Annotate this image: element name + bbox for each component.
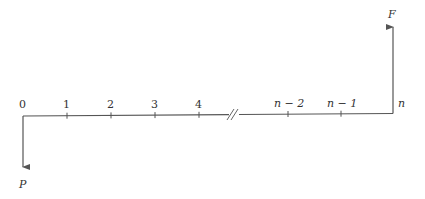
time-label-n-minus-2: n − 2: [274, 97, 304, 110]
cash-flow-diagram: 0 1 2 3 4 n − 2 n − 1 n P F: [0, 0, 425, 199]
time-label-0: 0: [19, 98, 26, 111]
time-label-4: 4: [195, 98, 202, 111]
time-label-1: 1: [63, 98, 70, 111]
future-value-label: F: [387, 8, 396, 21]
time-axis-right: [239, 114, 393, 115]
time-label-n-minus-1: n − 1: [327, 97, 357, 110]
time-label-2: 2: [107, 98, 114, 111]
time-axis-left: [23, 115, 229, 116]
present-value-label: P: [18, 178, 27, 191]
time-label-3: 3: [151, 98, 158, 111]
time-label-n: n: [398, 97, 405, 110]
